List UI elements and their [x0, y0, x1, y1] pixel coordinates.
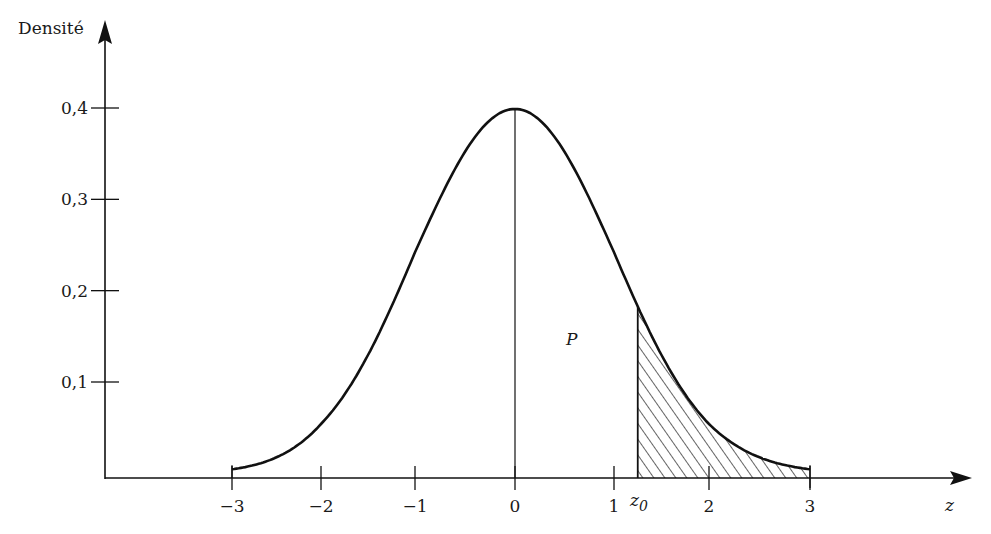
density-curve: [232, 109, 810, 469]
normal-distribution-chart: 0,10,20,30,4 −3−2−10123 Densité z P z0: [0, 0, 991, 534]
y-tick-label: 0,4: [61, 98, 88, 118]
y-tick-label: 0,2: [61, 281, 88, 301]
x-tick-label: −3: [219, 496, 244, 516]
z0-label-subscript: 0: [639, 498, 648, 514]
x-tick-label: 3: [805, 496, 816, 516]
y-axis-title: Densité: [18, 18, 84, 38]
z0-label: z0: [629, 490, 648, 514]
x-tick-label: 2: [704, 496, 715, 516]
x-tick-label: 0: [510, 496, 521, 516]
x-axis-title: z: [944, 495, 955, 515]
probability-label: P: [565, 329, 578, 349]
y-tick-label: 0,1: [61, 372, 88, 392]
x-tick-label: −2: [308, 496, 333, 516]
shaded-tail-region: [638, 307, 810, 479]
x-tick-label: −1: [402, 496, 427, 516]
y-axis-ticks: 0,10,20,30,4: [61, 98, 119, 392]
x-tick-label: 1: [609, 496, 620, 516]
y-tick-label: 0,3: [61, 189, 88, 209]
